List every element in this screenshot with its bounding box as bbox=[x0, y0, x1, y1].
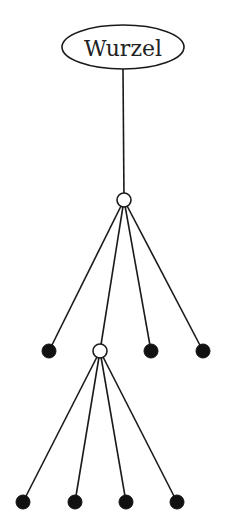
edge-n2-l4 bbox=[23, 351, 100, 502]
tree-diagram: Wurzel bbox=[0, 0, 238, 529]
leaf-node-l7 bbox=[170, 495, 184, 509]
edges bbox=[23, 69, 203, 502]
nodes bbox=[16, 193, 210, 509]
internal-node-n2 bbox=[93, 344, 107, 358]
edge-n2-l7 bbox=[100, 351, 177, 502]
root-node: Wurzel bbox=[62, 25, 184, 69]
leaf-node-l1 bbox=[42, 344, 56, 358]
root-label: Wurzel bbox=[84, 36, 162, 61]
edge-n2-l5 bbox=[75, 351, 100, 502]
edge-root-n1 bbox=[123, 69, 124, 200]
edge-n1-l3 bbox=[124, 200, 203, 351]
internal-node-n1 bbox=[117, 193, 131, 207]
leaf-node-l3 bbox=[196, 344, 210, 358]
leaf-node-l2 bbox=[144, 344, 158, 358]
leaf-node-l4 bbox=[16, 495, 30, 509]
edge-n2-l6 bbox=[100, 351, 126, 502]
leaf-node-l6 bbox=[119, 495, 133, 509]
leaf-node-l5 bbox=[68, 495, 82, 509]
edge-n1-l2 bbox=[124, 200, 151, 351]
